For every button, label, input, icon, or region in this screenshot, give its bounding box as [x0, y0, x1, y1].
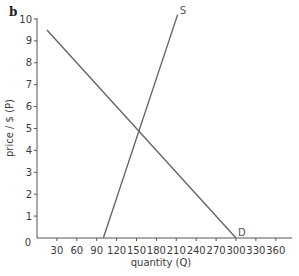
curve-d — [47, 30, 236, 238]
x-axis-title: quantity (Q) — [131, 257, 192, 268]
x-tick-label: 360 — [266, 245, 285, 256]
supply-demand-chart: b 01234567891030609012015018021024027030… — [0, 0, 299, 276]
y-tick-label: 4 — [26, 145, 32, 156]
x-tick-label: 180 — [147, 245, 166, 256]
y-tick-label: 1 — [26, 211, 32, 222]
x-tick-label: 240 — [187, 245, 206, 256]
y-tick-label: 9 — [26, 35, 32, 46]
y-axis-title: price / $ (P) — [4, 99, 15, 157]
x-tick-label: 270 — [207, 245, 226, 256]
x-tick-label: 330 — [246, 245, 265, 256]
y-tick-label: 0 — [25, 237, 31, 248]
y-tick-label: 10 — [19, 14, 32, 25]
x-tick-label: 90 — [90, 245, 103, 256]
curve-label-d: D — [238, 227, 246, 238]
y-tick-label: 7 — [26, 79, 32, 90]
y-tick-label: 2 — [26, 189, 32, 200]
x-tick-label: 300 — [226, 245, 245, 256]
curve-label-s: S — [180, 5, 186, 16]
x-tick-label: 60 — [70, 245, 83, 256]
x-tick-label: 30 — [51, 245, 64, 256]
y-tick-label: 6 — [26, 101, 32, 112]
axes: 0123456789103060901201501802102402703003… — [19, 14, 292, 257]
y-tick-label: 3 — [26, 167, 32, 178]
x-tick-label: 150 — [127, 245, 146, 256]
series: DS — [47, 5, 246, 238]
x-tick-label: 210 — [167, 245, 186, 256]
curve-s — [103, 15, 177, 238]
y-tick-label: 5 — [26, 123, 32, 134]
x-tick-label: 120 — [107, 245, 126, 256]
panel-label: b — [9, 5, 17, 19]
y-tick-label: 8 — [26, 57, 32, 68]
